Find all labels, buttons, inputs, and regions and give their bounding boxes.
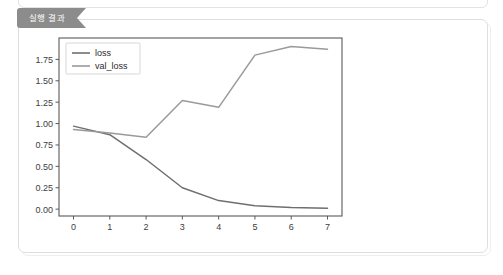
y-tick-label: 0.50 [35,162,53,172]
x-tick-label: 1 [107,222,112,232]
x-tick-label: 6 [289,222,294,232]
x-tick-label: 5 [252,222,257,232]
y-tick-label: 1.00 [35,119,53,129]
y-tick-label: 1.75 [35,55,53,65]
loss-chart-figure: 0.000.250.500.751.001.251.501.7501234567… [22,24,352,239]
previous-card [18,0,488,8]
x-tick-label: 2 [144,222,149,232]
legend-label-loss: loss [95,48,112,58]
result-tab[interactable]: 실행 결과 [17,8,77,28]
result-tab-label: 실행 결과 [29,14,65,23]
legend-label-val_loss: val_loss [95,61,128,71]
y-tick-label: 1.50 [35,76,53,86]
y-tick-label: 0.00 [35,205,53,215]
y-tick-label: 0.25 [35,183,53,193]
y-tick-label: 1.25 [35,98,53,108]
x-tick-label: 0 [71,222,76,232]
x-tick-label: 7 [325,222,330,232]
loss-chart-svg: 0.000.250.500.751.001.251.501.7501234567… [22,24,352,239]
tab-arrow-icon [77,8,86,28]
screenshot-root: 실행 결과 0.000.250.500.751.001.251.501.7501… [0,0,503,275]
x-tick-label: 4 [216,222,221,232]
x-tick-label: 3 [180,222,185,232]
y-tick-label: 0.75 [35,140,53,150]
